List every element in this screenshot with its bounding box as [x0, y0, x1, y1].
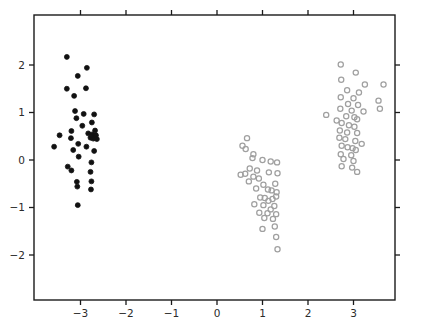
- data-point: [92, 112, 97, 117]
- data-point: [68, 136, 73, 141]
- data-point: [89, 160, 94, 165]
- data-point: [74, 116, 79, 121]
- data-point: [73, 109, 78, 114]
- x-tick-label: 0: [214, 307, 221, 319]
- data-point: [76, 141, 81, 146]
- y-tick-label: 1: [18, 106, 25, 118]
- data-point: [88, 135, 93, 140]
- data-point: [71, 148, 76, 153]
- data-point: [69, 168, 74, 173]
- data-point: [52, 144, 57, 149]
- scatter-plot-figure: −3−2−10123 −2−1012: [0, 0, 421, 333]
- data-point: [88, 169, 93, 174]
- data-point: [75, 184, 80, 189]
- y-tick-label: 2: [18, 59, 25, 71]
- y-tick-label: −2: [10, 249, 25, 261]
- data-point: [64, 54, 69, 59]
- data-point: [89, 120, 94, 125]
- data-point: [94, 137, 99, 142]
- data-point: [80, 123, 85, 128]
- data-point: [74, 179, 79, 184]
- y-tick-label: −1: [10, 201, 25, 213]
- data-point: [81, 111, 86, 116]
- x-tick-label: −2: [118, 307, 133, 319]
- scatter-plot-canvas: −3−2−10123 −2−1012: [0, 0, 421, 333]
- data-point: [92, 149, 97, 154]
- plot-background: [0, 0, 421, 333]
- data-point: [75, 73, 80, 78]
- data-point: [76, 154, 81, 159]
- data-point: [83, 86, 88, 91]
- data-point: [75, 203, 80, 208]
- x-tick-label: 3: [350, 307, 357, 319]
- data-point: [57, 133, 62, 138]
- data-point: [64, 86, 69, 91]
- x-tick-label: 1: [259, 307, 266, 319]
- data-point: [84, 65, 89, 70]
- data-point: [84, 144, 89, 149]
- y-tick-label: 0: [18, 154, 25, 166]
- x-tick-label: 2: [305, 307, 312, 319]
- data-point: [69, 129, 74, 134]
- data-point: [89, 187, 94, 192]
- x-tick-label: −3: [73, 307, 88, 319]
- x-tick-label: −1: [164, 307, 179, 319]
- data-point: [72, 93, 77, 98]
- data-point: [89, 179, 94, 184]
